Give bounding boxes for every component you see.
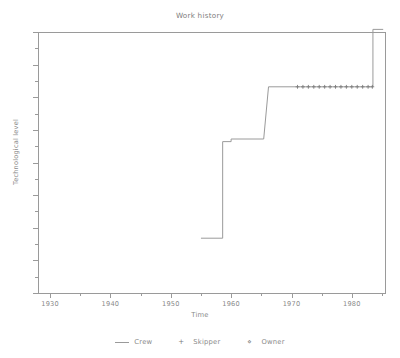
y-tick (33, 195, 38, 196)
legend-line-icon (115, 338, 129, 347)
x-tick-minor (201, 293, 202, 296)
x-tick-minor (80, 293, 81, 296)
y-tick (35, 114, 38, 115)
y-tick (35, 211, 38, 212)
skipper-plus-marker (328, 85, 332, 89)
legend-plus-glyph: + (174, 338, 188, 347)
legend-diamond-glyph: ⋄ (242, 338, 256, 347)
y-axis-label: Technological level (12, 92, 20, 212)
y-tick (35, 277, 38, 278)
plot-right-border (385, 32, 386, 294)
legend-label-owner: Owner (261, 338, 284, 346)
legend-diamond-icon: ⋄ (242, 338, 256, 347)
x-tick-major (352, 293, 353, 298)
legend-label-crew: Crew (134, 338, 152, 346)
skipper-plus-marker (350, 85, 354, 89)
y-tick (33, 163, 38, 164)
x-tick-label: 1950 (151, 300, 191, 308)
skipper-plus-marker (312, 85, 316, 89)
x-tick-major (292, 293, 293, 298)
skipper-plus-marker (366, 85, 370, 89)
x-tick-major (231, 293, 232, 298)
x-tick-label: 1930 (30, 300, 70, 308)
skipper-plus-marker (361, 85, 365, 89)
y-tick (33, 32, 38, 33)
skipper-plus-marker (317, 85, 321, 89)
y-tick (33, 65, 38, 66)
y-tick (35, 48, 38, 49)
y-tick (35, 146, 38, 147)
x-tick-label: 1970 (272, 300, 312, 308)
x-tick-minor (141, 293, 142, 296)
skipper-plus-marker (370, 85, 374, 89)
skipper-plus-marker (296, 85, 300, 89)
skipper-plus-marker (334, 85, 338, 89)
x-tick-minor (261, 293, 262, 296)
x-tick-major (171, 293, 172, 298)
y-axis-line (38, 32, 39, 294)
y-tick (33, 293, 38, 294)
y-tick (35, 244, 38, 245)
x-tick-label: 1980 (332, 300, 372, 308)
x-tick-label: 1940 (90, 300, 130, 308)
y-tick (33, 97, 38, 98)
x-tick-label: 1960 (211, 300, 251, 308)
skipper-plus-marker (306, 85, 310, 89)
y-tick (35, 179, 38, 180)
legend-label-skipper: Skipper (193, 338, 220, 346)
skipper-plus-marker (355, 85, 359, 89)
x-axis-line (38, 293, 386, 294)
y-tick (33, 260, 38, 261)
x-axis-label: Time (0, 311, 400, 319)
x-tick-minor (382, 293, 383, 296)
x-tick-major (50, 293, 51, 298)
y-tick (33, 130, 38, 131)
chart-legend: Crew + Skipper ⋄ Owner (0, 334, 400, 350)
legend-plus-icon: + (174, 338, 188, 347)
series-crew-line (201, 29, 383, 238)
series-skipper-markers (296, 85, 375, 89)
chart-figure: Work history 193019401950196019701980 Te… (0, 0, 400, 358)
x-tick-minor (322, 293, 323, 296)
skipper-plus-marker (301, 85, 305, 89)
skipper-plus-marker (344, 85, 348, 89)
skipper-plus-marker (339, 85, 343, 89)
legend-item-skipper: + Skipper (174, 338, 220, 347)
x-tick-major (110, 293, 111, 298)
chart-title: Work history (0, 11, 400, 20)
plot-top-border (38, 32, 386, 33)
legend-item-owner: ⋄ Owner (242, 338, 284, 347)
legend-item-crew: Crew (115, 338, 152, 347)
y-tick (33, 228, 38, 229)
skipper-plus-marker (323, 85, 327, 89)
y-tick (35, 81, 38, 82)
